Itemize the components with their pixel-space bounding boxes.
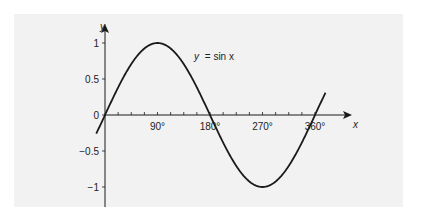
x-tick-label: 180° [200, 121, 221, 132]
x-tick-label: 360° [305, 121, 326, 132]
y-tick-label: −0.5 [79, 146, 99, 157]
y-tick-labels: 10.50−0.5−1 [79, 38, 99, 193]
x-tick-label: 90° [150, 121, 165, 132]
y-tick-label: −1 [88, 182, 100, 193]
y-axis-label: y [99, 21, 106, 32]
sine-chart: y x y = sin x 90°180°270°360° 10.50−0.5−… [0, 0, 429, 221]
y-tick-label: 0.5 [85, 74, 99, 85]
y-tick-label: 0 [93, 110, 99, 121]
y-tick-label: 1 [93, 38, 99, 49]
annotation-y: y [193, 51, 200, 62]
curve-annotation: y = sin x [193, 51, 234, 62]
x-tick-label: 270° [252, 121, 273, 132]
annotation-eq: = sin x [205, 51, 234, 62]
x-tick-labels: 90°180°270°360° [150, 121, 325, 132]
x-axis-label: x [352, 119, 359, 130]
